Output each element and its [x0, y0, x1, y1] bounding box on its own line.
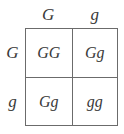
row-header-0: G — [0, 28, 25, 77]
punnett-cell-0-0: GG — [26, 29, 72, 77]
punnett-cell-0-0-label: GG — [37, 45, 60, 61]
punnett-cell-1-1: gg — [72, 77, 118, 125]
row-header-1: g — [0, 77, 25, 126]
punnett-square: G g G g GG Gg Gg gg — [0, 0, 124, 134]
punnett-grid: GG Gg Gg gg — [25, 28, 118, 126]
column-header-0: G — [25, 1, 72, 28]
punnett-cell-1-0-label: Gg — [39, 94, 59, 110]
column-header-1: g — [72, 1, 119, 28]
row-header-0-label: G — [6, 44, 18, 61]
punnett-cell-1-0: Gg — [26, 77, 72, 125]
column-header-row: G g — [25, 1, 118, 28]
punnett-cell-1-1-label: gg — [87, 94, 103, 110]
row-header-1-label: g — [8, 93, 17, 110]
column-header-1-label: g — [91, 6, 100, 23]
column-header-0-label: G — [42, 6, 54, 23]
row-header-column: G g — [0, 28, 25, 126]
punnett-cell-0-1: Gg — [72, 29, 118, 77]
punnett-cell-0-1-label: Gg — [85, 45, 105, 61]
